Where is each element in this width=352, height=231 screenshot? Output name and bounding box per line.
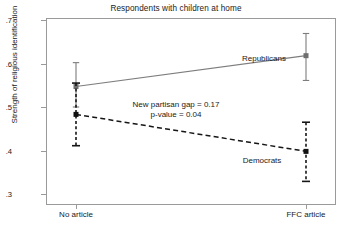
annotation-line: p-value = 0.04 (0, 110, 352, 120)
data-point-marker (304, 53, 309, 58)
series-label-republicans: Republicans (242, 54, 286, 63)
annotation-line: New partisan gap = 0.17 (0, 100, 352, 110)
data-point-marker (304, 149, 309, 154)
chart-figure: Respondents with children at home Streng… (0, 0, 352, 231)
series-label-democrats: Democrats (243, 156, 282, 165)
annotation-block: New partisan gap = 0.17p-value = 0.04 (0, 100, 352, 120)
